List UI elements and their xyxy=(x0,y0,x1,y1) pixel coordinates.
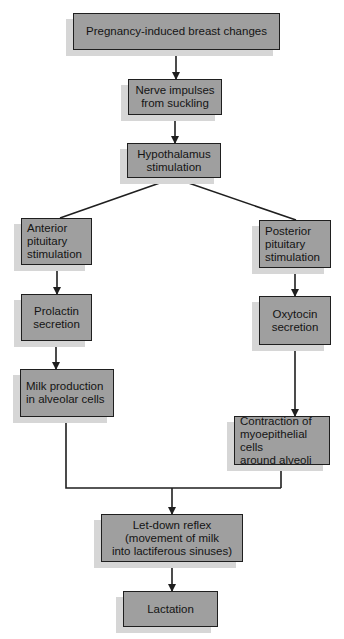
node-posterior: Posterior pituitary stimulation xyxy=(259,220,331,268)
node-nerve: Nerve impulses from suckling xyxy=(128,79,222,115)
node-label: Let-down reflex (movement of milk into l… xyxy=(112,519,232,558)
lactation-flowchart: Pregnancy-induced breast changesNerve im… xyxy=(0,0,344,639)
node-label: Lactation xyxy=(147,603,194,616)
node-label: Contraction of myoepithelial cells aroun… xyxy=(240,415,329,467)
node-milk: Milk production in alveolar cells xyxy=(20,369,114,417)
node-label: Prolactin secretion xyxy=(33,305,80,331)
node-anterior: Anterior pituitary stimulation xyxy=(21,218,92,265)
connector-hypothalamus-to-anterior xyxy=(60,178,174,218)
node-letdown: Let-down reflex (movement of milk into l… xyxy=(101,514,243,562)
node-lactation: Lactation xyxy=(123,591,218,627)
node-label: Anterior pituitary stimulation xyxy=(27,222,82,261)
node-label: Pregnancy-induced breast changes xyxy=(86,25,267,38)
node-label: Hypothalamus stimulation xyxy=(137,148,211,174)
node-pregnancy: Pregnancy-induced breast changes xyxy=(73,13,280,50)
connector-hypothalamus-to-posterior xyxy=(174,178,296,220)
node-label: Oxytocin secretion xyxy=(272,308,319,334)
node-hypothalamus: Hypothalamus stimulation xyxy=(127,143,221,178)
node-label: Nerve impulses from suckling xyxy=(135,84,214,110)
node-label: Milk production in alveolar cells xyxy=(26,380,105,406)
node-label: Posterior pituitary stimulation xyxy=(265,225,320,264)
node-oxytocin: Oxytocin secretion xyxy=(259,296,331,345)
node-prolactin: Prolactin secretion xyxy=(21,294,92,341)
node-contraction: Contraction of myoepithelial cells aroun… xyxy=(234,416,330,465)
